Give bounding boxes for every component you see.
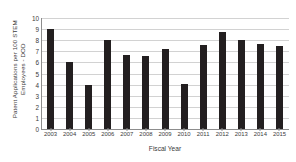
bar (47, 29, 54, 129)
y-axis-tick-label: 3 (26, 92, 39, 99)
x-axis-tick-label: 2007 (120, 131, 133, 137)
y-axis-tick-label: 9 (26, 26, 39, 33)
bar (104, 40, 111, 129)
y-axis-tick-labels: 012345678910 (26, 12, 39, 130)
x-axis-tick-label: 2014 (254, 131, 267, 137)
y-axis-tick-label: 8 (26, 37, 39, 44)
bar (66, 62, 73, 129)
x-axis-tick-label: 2003 (44, 131, 57, 137)
bar (162, 49, 169, 129)
y-axis-title-line-1: Patent Applications per 100 STEM (11, 20, 19, 118)
y-axis-tick-label: 5 (26, 70, 39, 77)
y-axis-tick-label: 7 (26, 48, 39, 55)
y-axis-tick-label: 0 (26, 126, 39, 133)
x-axis-tick-label: 2013 (235, 131, 248, 137)
bar-series (41, 18, 289, 129)
x-axis-tick-label: 2011 (197, 131, 210, 137)
x-axis-tick-label: 2012 (216, 131, 229, 137)
bar (142, 56, 149, 129)
x-axis-tick-label: 2009 (158, 131, 171, 137)
x-axis-tick-label: 2004 (63, 131, 76, 137)
y-axis-tick-label: 4 (26, 81, 39, 88)
bar (200, 45, 207, 129)
y-axis-tick-label: 2 (26, 103, 39, 110)
y-axis-tick-label: 1 (26, 114, 39, 121)
bar (181, 84, 188, 130)
x-axis-tick-label: 2010 (178, 131, 191, 137)
x-axis-tick-label: 2008 (139, 131, 152, 137)
x-axis-tick-label: 2005 (82, 131, 95, 137)
bar (123, 55, 130, 129)
bar-chart: Patent Applications per 100 STEM Employe… (0, 0, 296, 162)
x-axis-tick-label: 2015 (273, 131, 286, 137)
bar (257, 44, 264, 129)
bar (276, 46, 283, 129)
bar (238, 40, 245, 129)
y-axis-tick-label: 10 (26, 15, 39, 22)
x-axis-title: Fiscal Year (41, 145, 289, 152)
x-axis-tick-label: 2006 (101, 131, 114, 137)
bar (85, 85, 92, 129)
x-axis-tick-labels: 2003200420052006200720082009201020112012… (41, 131, 289, 143)
y-axis-tick-label: 6 (26, 59, 39, 66)
bar (219, 32, 226, 129)
